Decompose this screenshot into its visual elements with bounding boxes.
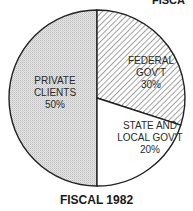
label-federal-line1: FEDERAL xyxy=(118,55,184,67)
label-federal-pct: 30% xyxy=(118,79,184,91)
label-federal-govt: FEDERAL GOV'T 30% xyxy=(118,55,184,91)
label-private-clients: PRIVATE CLIENTS 50% xyxy=(22,75,88,111)
label-state-local-govt: STATE AND LOCAL GOV'T 20% xyxy=(110,120,190,156)
label-federal-line2: GOV'T xyxy=(118,67,184,79)
label-private-line2: CLIENTS xyxy=(22,87,88,99)
label-private-line1: PRIVATE xyxy=(22,75,88,87)
label-state-pct: 20% xyxy=(110,144,190,156)
label-state-line2: LOCAL GOV'T xyxy=(110,132,190,144)
chart-title: FISCAL 1982 xyxy=(0,193,193,207)
label-state-line1: STATE AND xyxy=(110,120,190,132)
label-private-pct: 50% xyxy=(22,99,88,111)
